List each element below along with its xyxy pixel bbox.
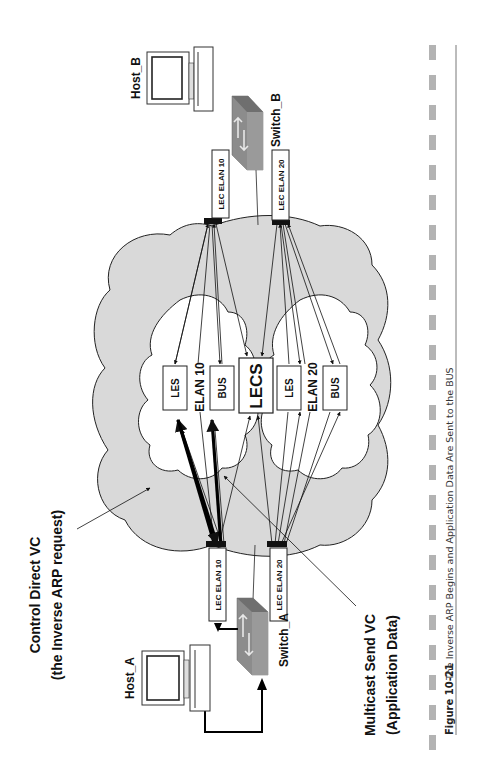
elan10-bus-box: BUS [210, 366, 234, 410]
svg-text:Control Direct VC: Control Direct VC [27, 537, 43, 654]
lec-box-switch-b-elan20: LEC ELAN 20 [272, 150, 289, 220]
elan20-les-box: LES [277, 366, 301, 410]
host-a-label: Host_A [123, 657, 137, 699]
svg-text:LEC ELAN 20: LEC ELAN 20 [275, 559, 284, 611]
switch-b-label: Switch_B [269, 93, 283, 147]
switch-b-icon [232, 96, 263, 170]
elan20-label: ELAN 20 [306, 362, 320, 412]
multicast-send-vc-callout: Multicast Send VC (Application Data) [362, 614, 400, 736]
svg-text:LES: LES [284, 378, 295, 398]
svg-text:LECS: LECS [247, 363, 266, 408]
host-b-computer-icon [147, 47, 213, 111]
lec-box-switch-a-elan20: LEC ELAN 20 [270, 548, 287, 621]
svg-text:LES: LES [170, 378, 181, 398]
lecs-box: LECS [239, 358, 273, 413]
svg-text:BUS: BUS [330, 377, 341, 398]
elan10-label: ELAN 10 [193, 362, 207, 412]
lec-box-switch-a-elan10: LEC ELAN 10 [209, 548, 226, 621]
switch-a-icon [237, 598, 268, 675]
svg-text:LEC ELAN 20: LEC ELAN 20 [277, 159, 286, 211]
control-direct-vc-callout: Control Direct VC (the Inverse ARP reque… [27, 510, 65, 680]
figure-caption: The Inverse ARP Begins and Application D… [444, 367, 455, 681]
lec-box-switch-b-elan10: LEC ELAN 10 [212, 150, 229, 218]
svg-text:BUS: BUS [217, 377, 228, 398]
svg-text:Multicast Send VC: Multicast Send VC [362, 614, 378, 736]
host-b-label: Host_B [129, 57, 143, 99]
svg-text:(the Inverse ARP request): (the Inverse ARP request) [49, 510, 65, 680]
figure-canvas: LES ELAN 10 BUS LECS LES ELAN 20 BUS LEC… [0, 0, 489, 776]
caption-dash-bar [429, 45, 436, 750]
host-a-computer-icon [142, 645, 210, 711]
elan10-les-box: LES [163, 366, 187, 410]
switch-a-label: Switch_A [277, 613, 291, 667]
elan20-bus-box: BUS [323, 366, 347, 410]
svg-text:ELAN 10: ELAN 10 [193, 362, 207, 412]
svg-text:LEC ELAN 10: LEC ELAN 10 [217, 158, 226, 210]
svg-text:ELAN 20: ELAN 20 [306, 362, 320, 412]
svg-text:(Application Data): (Application Data) [384, 615, 400, 735]
svg-text:LEC ELAN 10: LEC ELAN 10 [214, 559, 223, 611]
